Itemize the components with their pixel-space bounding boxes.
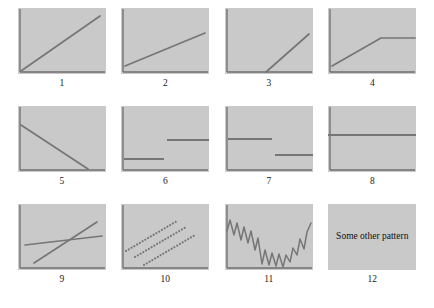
panel-caption: 6 xyxy=(163,177,168,187)
panel-cell-7: 7 xyxy=(217,106,321,204)
panel-cell-8: 8 xyxy=(321,106,425,204)
panel-caption: 2 xyxy=(163,79,168,89)
panel-some-other-pattern: Some other pattern xyxy=(328,204,416,270)
panel-cell-10: 10 xyxy=(114,204,218,302)
panel-caption: 4 xyxy=(370,79,375,89)
panel-parallel-dotted-lines xyxy=(121,204,209,270)
panel-zigzag xyxy=(225,204,313,270)
panel-cell-3: 3 xyxy=(217,8,321,106)
panel-caption: 5 xyxy=(59,177,64,187)
panel-cell-5: 5 xyxy=(10,106,114,204)
panel-caption: 1 xyxy=(59,79,64,89)
panel-caption: 3 xyxy=(266,79,271,89)
panel-cell-11: 11 xyxy=(217,204,321,302)
panel-cell-1: 1 xyxy=(10,8,114,106)
panel-crossing-lines xyxy=(18,204,106,270)
panel-caption: 11 xyxy=(264,275,273,285)
panel-cell-4: 4 xyxy=(321,8,425,106)
panel-caption: 10 xyxy=(161,275,171,285)
panel-late-rising-line xyxy=(225,8,313,74)
panel-cell-2: 2 xyxy=(114,8,218,106)
pattern-figure: 1 2 3 xyxy=(0,0,434,308)
panel-cell-6: 6 xyxy=(114,106,218,204)
panel-caption: 8 xyxy=(370,177,375,187)
panel-step-up xyxy=(121,106,209,172)
panel-steep-rising-line xyxy=(18,8,106,74)
panel-caption: 12 xyxy=(368,275,378,285)
panel-cell-9: 9 xyxy=(10,204,114,302)
panel-cell-12: Some other pattern 12 xyxy=(321,204,425,302)
panel-shallow-rising-line xyxy=(121,8,209,74)
panel-step-down xyxy=(225,106,313,172)
panel-declining-line xyxy=(18,106,106,172)
panel-text-label: Some other pattern xyxy=(328,204,416,270)
panel-grid: 1 2 3 xyxy=(0,0,434,308)
panel-flat-line xyxy=(328,106,416,172)
panel-caption: 9 xyxy=(59,275,64,285)
panel-caption: 7 xyxy=(266,177,271,187)
panel-rise-then-plateau xyxy=(328,8,416,74)
